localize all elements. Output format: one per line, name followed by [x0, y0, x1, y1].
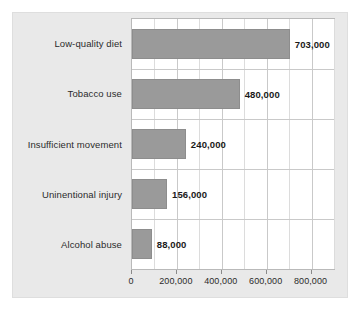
x-axis-tick-label: 200,000 [159, 276, 192, 286]
category-label-1: Tobacco use [13, 68, 129, 118]
x-axis-tick-label: 400,000 [204, 276, 237, 286]
bar-row: 240,000 [132, 119, 334, 169]
x-axis: 0200,000400,000600,000800,000 [131, 270, 335, 296]
bar-alcohol-abuse[interactable] [132, 229, 152, 259]
bar-value-label-1: 480,000 [245, 89, 280, 100]
x-axis-tick [131, 270, 132, 274]
bar-uninentional-injury[interactable] [132, 179, 167, 209]
category-label-0: Low-quality diet [13, 18, 129, 68]
bar-value-label-0: 703,000 [295, 39, 330, 50]
category-label-4: Alcohol abuse [13, 220, 129, 270]
bar-insufficient-movement[interactable] [132, 129, 186, 159]
bar-row: 480,000 [132, 69, 334, 119]
bar-low-quality-diet[interactable] [132, 29, 290, 59]
bar-row: 156,000 [132, 169, 334, 219]
x-axis-tick-label: 600,000 [249, 276, 282, 286]
x-axis-tick-label: 0 [128, 276, 133, 286]
bar-value-label-2: 240,000 [191, 139, 226, 150]
bar-value-label-3: 156,000 [172, 189, 207, 200]
gridline-minor [334, 19, 335, 269]
bar-tobacco-use[interactable] [132, 79, 240, 109]
x-axis-tick [266, 270, 267, 274]
x-axis-tick-label: 800,000 [294, 276, 327, 286]
category-label-2: Insufficient movement [13, 119, 129, 169]
bar-row: 88,000 [132, 219, 334, 269]
bar-row: 703,000 [132, 19, 334, 69]
plot-area: 703,000 480,000 240,000 156,000 88,000 [131, 18, 335, 270]
bar-chart-figure: Low-quality diet Tobacco use Insufficien… [0, 0, 361, 310]
category-axis: Low-quality diet Tobacco use Insufficien… [13, 18, 129, 270]
bar-value-label-4: 88,000 [157, 239, 187, 250]
chart-panel: Low-quality diet Tobacco use Insufficien… [13, 13, 347, 297]
bars-layer: 703,000 480,000 240,000 156,000 88,000 [132, 19, 334, 269]
x-axis-tick [311, 270, 312, 274]
x-axis-tick [176, 270, 177, 274]
category-label-3: Uninentional injury [13, 169, 129, 219]
x-axis-tick [221, 270, 222, 274]
